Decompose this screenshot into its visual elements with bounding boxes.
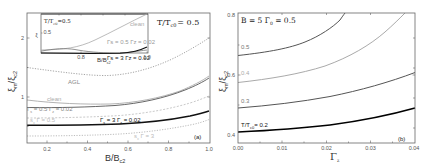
x-tick-label: 0.04	[409, 145, 420, 151]
panel-b: 0.00 0.01 0.02 0.03 0.04 0.4 0.6 0.8 Γz …	[218, 12, 419, 163]
label-t-0-3: 0.3	[241, 98, 250, 104]
x-tick-label: 0.01	[277, 145, 288, 151]
x-tick-label: 0.8	[165, 146, 173, 152]
x-tick-label: 0.6	[124, 146, 132, 152]
panel-a-label: (a)	[194, 134, 201, 140]
x-tick-label: 1.0	[205, 146, 213, 152]
panel-a-y-axis-title: ξm/ξc2	[7, 71, 18, 92]
inset-x-tick-label: 0.8	[77, 54, 85, 60]
inset-y-tick-label: 0.5	[44, 29, 52, 35]
label-t-0-4: 0.4	[241, 70, 250, 76]
x-tick-label: 0.03	[365, 145, 376, 151]
y-tick-label: 0.4	[227, 132, 235, 138]
label-s-pm-0-5: s± Γ = 0.5	[30, 117, 56, 125]
curve-t-0-2	[238, 108, 415, 132]
panel-a-x-tick-labels: 0.2 0.4 0.6 0.8 1.0	[43, 146, 213, 152]
panel-b-label: (b)	[398, 136, 405, 142]
inset-label-gamma-s-3: Γs = 3 Γz = 0.02	[107, 55, 151, 61]
y-tick-label: 0.8	[227, 12, 235, 18]
panel-b-x-ticks	[260, 13, 393, 143]
inset-label-clean: clean	[130, 21, 144, 27]
x-tick-label: 0.2	[43, 146, 51, 152]
y-tick-label: 1	[21, 94, 24, 100]
curve-t-0-3	[238, 73, 415, 109]
label-agl: AGL	[68, 79, 81, 85]
label-t-0-5: 0.5	[241, 44, 250, 50]
panel-b-x-tick-labels: 0.00 0.01 0.02 0.03 0.04	[233, 145, 420, 151]
label-gamma-s-0-5: Γs = 0.5 Γz = 0.02	[27, 106, 73, 114]
inset-y-axis-title: ξ	[36, 32, 39, 39]
y-tick-label: 2	[21, 35, 24, 41]
panel-b-y-axis-title: ξm/ξc2	[218, 71, 229, 92]
panel-a-inset: 0.8 1.0 0.5 ξ B/Bc2 T/Tc0=0.5 clean Γs =…	[36, 14, 156, 65]
label-clean: clean	[47, 96, 61, 102]
panel-a-x-axis-title: B/Bc2	[105, 153, 125, 164]
label-s-pm-3: s± Γ = 3	[134, 133, 155, 141]
panel-a: 0.2 0.4 0.6 0.8 1.0 1 2 B/Bc2 ξm/ξc2 T/T…	[7, 13, 213, 164]
x-tick-label: 0.4	[84, 146, 92, 152]
panel-b-x-axis-title: Γz	[330, 151, 340, 163]
panel-b-title: B = 5 Γ0 = 0.5	[241, 16, 296, 26]
label-t-0-2: T/Tc0= 0.2	[241, 122, 268, 130]
inset-label-gamma-s-0-5: Γs = 0.5 Γz = 0.02	[107, 39, 156, 45]
x-tick-label: 0.00	[233, 145, 244, 151]
figure: 0.2 0.4 0.6 0.8 1.0 1 2 B/Bc2 ξm/ξc2 T/T…	[0, 0, 427, 166]
panel-a-title: T/Tc0= 0.5	[157, 18, 199, 28]
